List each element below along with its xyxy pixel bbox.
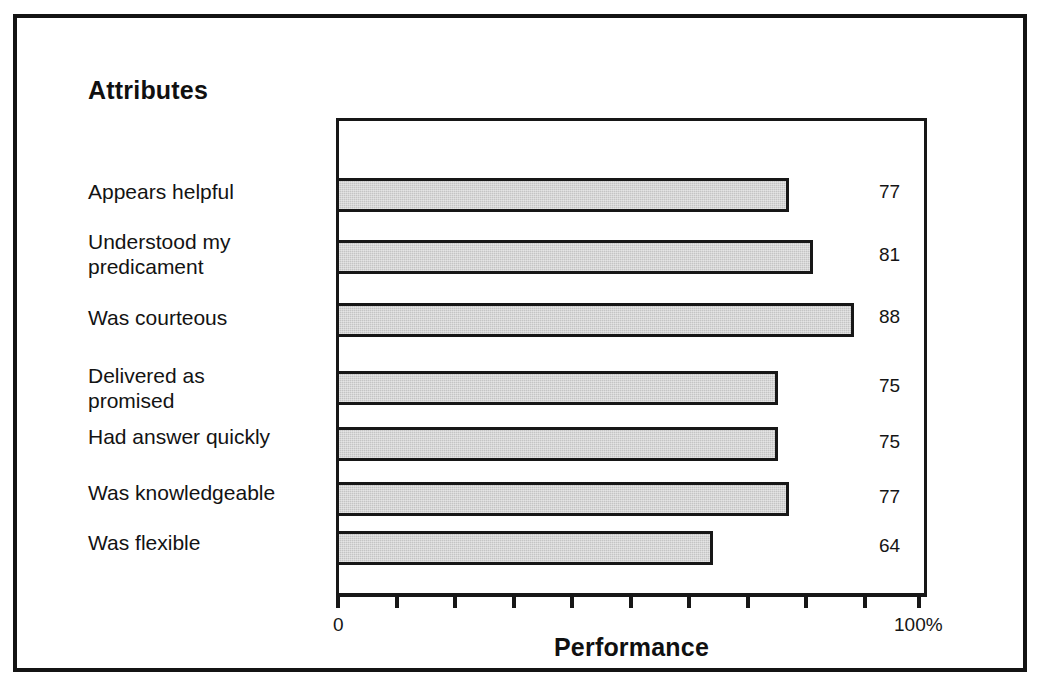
bar-value-label: 77	[879, 181, 900, 203]
x-axis-tick	[687, 597, 691, 608]
category-label: Delivered as promised	[88, 363, 328, 413]
chart-page: Attributes Appears helpfulUnderstood my …	[0, 0, 1039, 685]
x-axis-tick	[917, 597, 921, 608]
x-axis-tick	[629, 597, 633, 608]
bar	[336, 371, 778, 405]
x-axis-tick	[804, 597, 808, 608]
x-axis-title: Performance	[336, 633, 927, 662]
x-axis-tick	[453, 597, 457, 608]
bar	[336, 178, 789, 212]
category-label: Appears helpful	[88, 179, 328, 204]
category-label: Understood my predicament	[88, 229, 328, 279]
page-title: Attributes	[88, 76, 208, 105]
bar	[336, 531, 713, 565]
x-axis-tick	[395, 597, 399, 608]
category-label: Had answer quickly	[88, 424, 328, 449]
category-label: Was knowledgeable	[88, 480, 328, 505]
x-axis-tick	[512, 597, 516, 608]
bar-value-label: 75	[879, 375, 900, 397]
bar-value-label: 75	[879, 431, 900, 453]
x-axis-tick	[863, 597, 867, 608]
bar	[336, 303, 854, 337]
bars-container	[339, 121, 924, 593]
bar-value-label: 88	[879, 306, 900, 328]
bar	[336, 482, 789, 516]
bar-value-label: 81	[879, 244, 900, 266]
bar-value-label: 77	[879, 486, 900, 508]
bar	[336, 427, 778, 461]
x-axis-tick	[746, 597, 750, 608]
x-axis-tick	[570, 597, 574, 608]
bar	[336, 240, 813, 274]
category-label: Was flexible	[88, 530, 328, 555]
bar-value-label: 64	[879, 535, 900, 557]
x-axis-tick	[336, 597, 340, 608]
category-label: Was courteous	[88, 305, 328, 330]
